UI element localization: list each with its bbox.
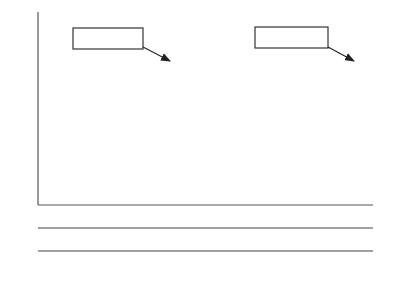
arrow-icon	[328, 47, 354, 61]
null-hypothesis-callout	[0, 0, 170, 61]
arrow-icon	[143, 47, 170, 61]
power-diagram	[0, 0, 398, 284]
true-value-callout	[255, 27, 354, 61]
